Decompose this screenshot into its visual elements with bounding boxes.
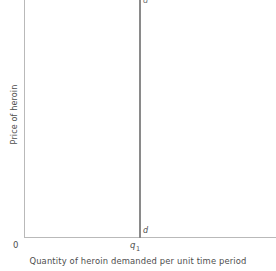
y-axis-title: Price of heroin	[10, 65, 19, 165]
origin-label: 0	[13, 240, 18, 250]
x-axis-line	[24, 237, 276, 238]
x-axis-title: Quantity of heroin demanded per unit tim…	[0, 256, 276, 266]
demand-curve-top-label: d	[143, 0, 148, 5]
demand-curve-figure: d d Price of heroin Quantity of heroin d…	[0, 0, 276, 271]
x-tick-label-q1-subscript: 1	[135, 245, 140, 253]
y-axis-line	[24, 0, 25, 238]
demand-curve-bottom-label: d	[143, 226, 148, 235]
x-tick-label-q1: q1	[130, 240, 140, 253]
demand-curve-line	[139, 0, 141, 238]
